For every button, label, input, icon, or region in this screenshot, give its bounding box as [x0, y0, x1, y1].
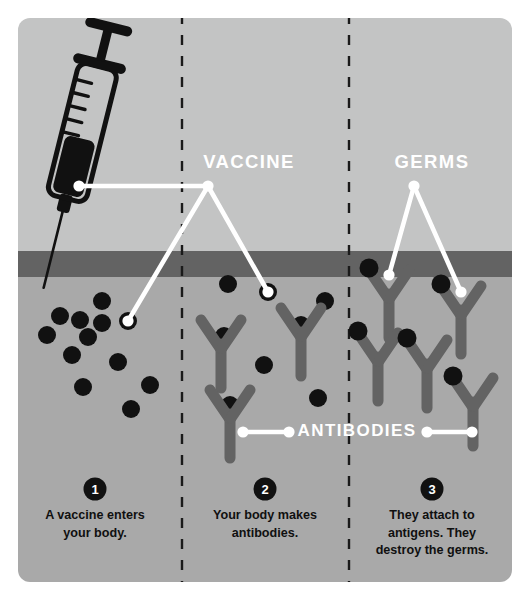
germ-dot-panel-1	[71, 311, 89, 329]
germ-dot-panel-2	[255, 356, 273, 374]
leader-end-dot	[421, 426, 432, 437]
step-caption-line: Your body makes	[213, 508, 317, 522]
germ-dot-panel-1	[93, 292, 111, 310]
leader-end-dot	[122, 315, 133, 326]
germ-attached-to-antibody	[444, 367, 463, 386]
germ-dot-panel-2	[309, 389, 327, 407]
skin-surface-bar	[18, 251, 512, 277]
step-caption-line: antibodies.	[232, 526, 298, 540]
leader-end-dot	[283, 426, 294, 437]
label-germs: GERMS	[395, 151, 470, 172]
germ-attached-to-antibody	[349, 322, 368, 341]
step-caption-line: antigens. They	[388, 526, 476, 540]
germ-attached-to-antibody	[360, 259, 379, 278]
germ-dot-panel-1	[79, 328, 97, 346]
step-caption-line: A vaccine enters	[45, 508, 145, 522]
label-antibodies: ANTIBODIES	[298, 421, 417, 440]
germ-dot-panel-1	[51, 307, 69, 325]
germ-attached-to-antibody	[432, 275, 451, 294]
step-badge-number: 1	[91, 482, 98, 497]
germ-dot-panel-1	[109, 353, 127, 371]
germ-dot-panel-1	[38, 326, 56, 344]
leader-end-dot	[262, 286, 273, 297]
germ-dot-panel-2	[219, 275, 237, 293]
leader-end-dot	[73, 180, 84, 191]
germ-dot-panel-1	[93, 314, 111, 332]
leader-end-dot	[383, 269, 394, 280]
step-caption-line: They attach to	[389, 508, 475, 522]
panel-upper-body-background	[18, 18, 512, 251]
leader-end-dot	[466, 426, 477, 437]
germ-attached-to-antibody	[398, 329, 417, 348]
step-caption-line: destroy the germs.	[376, 543, 489, 557]
germ-dot-panel-1	[74, 378, 92, 396]
germ-dot-panel-1	[141, 376, 159, 394]
step-badge-number: 3	[428, 482, 435, 497]
vaccine-infographic-canvas: VACCINEGERMSANTIBODIES 1A vaccine enters…	[0, 0, 530, 597]
step-caption-line: your body.	[63, 526, 126, 540]
leader-end-dot	[455, 286, 466, 297]
infographic-root: VACCINEGERMSANTIBODIES 1A vaccine enters…	[0, 0, 530, 597]
step-badge-number: 2	[261, 482, 268, 497]
germ-dot-panel-1	[63, 346, 81, 364]
label-vaccine: VACCINE	[203, 151, 295, 172]
leader-end-dot	[237, 426, 248, 437]
germ-dot-panel-1	[122, 400, 140, 418]
